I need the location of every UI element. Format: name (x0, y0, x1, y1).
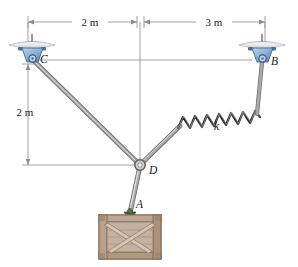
support-b (239, 34, 285, 62)
cable-cd (32, 59, 139, 164)
support-c (9, 34, 55, 62)
node-d-ring (135, 160, 145, 170)
dim-arrow-v-bottom (26, 159, 31, 165)
dim-label-3m-horizontal: 3 m (206, 16, 223, 28)
rod-d-to-spring (140, 125, 180, 164)
dim-arrow-left (28, 20, 34, 25)
dimension-lines (22, 16, 265, 165)
dim-label-2m-vertical: 2 m (17, 106, 34, 118)
label-point-a: A (135, 198, 144, 210)
label-point-c: C (40, 53, 48, 65)
statics-diagram: 2 m 3 m 2 m k D (0, 0, 298, 267)
spring-label-k: k (214, 120, 220, 132)
dim-label-2m-horizontal: 2 m (82, 16, 99, 28)
dim-arrow-mid-r (144, 20, 150, 25)
dim-arrow-mid-l (131, 20, 137, 25)
label-point-d: D (148, 164, 158, 176)
rod-spring-to-b (257, 62, 262, 114)
dim-arrow-v-top (26, 64, 31, 70)
dim-arrow-right (259, 20, 265, 25)
figure-canvas: 2 m 3 m 2 m k D (0, 0, 298, 267)
label-point-b: B (271, 55, 278, 67)
crate (99, 215, 161, 259)
